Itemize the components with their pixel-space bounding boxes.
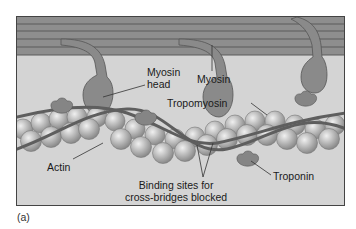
label-binding-sites: Binding sites for cross-bridges blocked	[125, 179, 227, 203]
thick-filament	[17, 17, 345, 55]
label-troponin: Troponin	[273, 170, 314, 182]
label-myosin-head: Myosin head	[147, 66, 180, 90]
label-tropomyosin: Tropomyosin	[167, 97, 227, 109]
label-myosin: Myosin	[197, 73, 230, 85]
diagram-frame: Myosin head Myosin Tropomyosin Actin Bin…	[16, 16, 345, 206]
label-actin: Actin	[47, 161, 70, 173]
figure-caption: (a)	[17, 211, 30, 223]
